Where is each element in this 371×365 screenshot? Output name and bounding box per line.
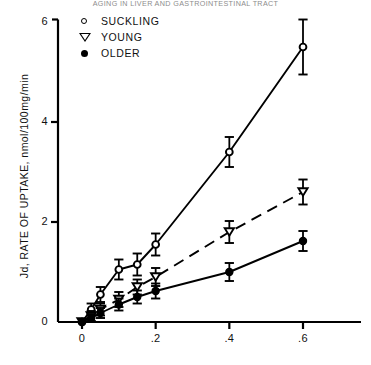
data-point-older <box>134 294 141 301</box>
data-point-older <box>300 238 307 245</box>
data-point-suckling <box>226 149 233 156</box>
data-point-older <box>115 301 122 308</box>
data-point-suckling <box>97 291 104 298</box>
data-point-suckling <box>134 261 141 268</box>
data-point-older <box>97 310 104 317</box>
data-point-older <box>152 288 159 295</box>
data-point-suckling <box>300 44 307 51</box>
data-point-suckling <box>152 241 159 248</box>
data-point-older <box>79 319 86 326</box>
plot-canvas <box>0 0 371 365</box>
data-point-suckling <box>115 266 122 273</box>
data-point-older <box>88 315 95 322</box>
figure-container: AGING IN LIVER AND GASTROINTESTINAL TRAC… <box>0 0 371 365</box>
data-point-older <box>226 269 233 276</box>
